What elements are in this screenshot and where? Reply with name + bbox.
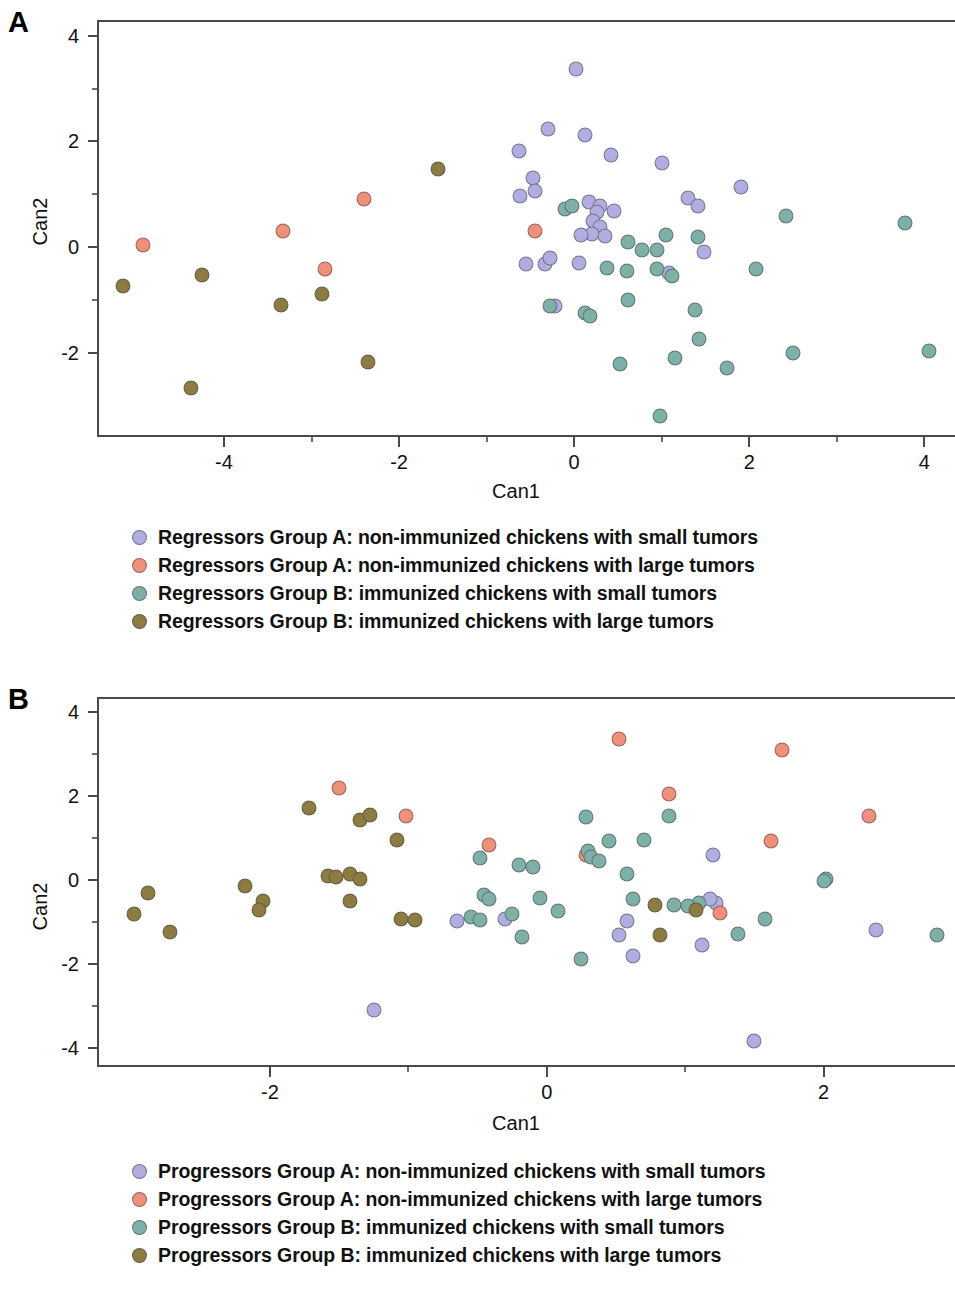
data-point [366, 1003, 381, 1018]
y-axis-tick [88, 246, 97, 248]
data-point [565, 198, 580, 213]
data-point [141, 885, 156, 900]
data-point [592, 853, 607, 868]
data-point [720, 361, 735, 376]
y-axis-tick-label: -2 [31, 952, 79, 975]
legend-item: Progressors Group B: immunized chickens … [132, 1215, 766, 1240]
y-axis-minor-tick [92, 299, 97, 301]
x-axis-tick [269, 1067, 271, 1077]
legend-label: Progressors Group A: non-immunized chick… [158, 1160, 766, 1183]
y-axis-minor-tick [92, 193, 97, 195]
y-axis-minor-tick [92, 1005, 97, 1007]
data-point [408, 912, 423, 927]
x-axis-minor-tick [661, 437, 663, 442]
y-axis-tick-label: 0 [31, 235, 79, 258]
data-point [527, 224, 542, 239]
data-point [275, 224, 290, 239]
data-point [163, 925, 178, 940]
x-axis-tick [748, 437, 750, 447]
panel-a: A Can2 420-2-4-2024 Can1 Regressors Grou… [0, 0, 955, 650]
x-axis-tick [546, 1067, 548, 1077]
data-point [315, 287, 330, 302]
data-point [481, 891, 496, 906]
y-axis-minor-tick [92, 88, 97, 90]
data-point [195, 267, 210, 282]
data-point [691, 199, 706, 214]
data-point [238, 879, 253, 894]
y-axis-tick-label: 4 [31, 700, 79, 723]
data-point [650, 262, 665, 277]
legend-label: Regressors Group A: non-immunized chicke… [158, 526, 758, 549]
data-point [749, 262, 764, 277]
scientific-figure: A Can2 420-2-4-2024 Can1 Regressors Grou… [0, 0, 955, 1294]
data-point [394, 911, 409, 926]
data-point [661, 808, 676, 823]
data-point [135, 238, 150, 253]
x-axis-tick [923, 437, 925, 447]
y-axis-tick-label: 0 [31, 868, 79, 891]
panel-b-legend: Progressors Group A: non-immunized chick… [132, 1159, 766, 1271]
data-point [898, 216, 913, 231]
y-axis-minor-tick [92, 753, 97, 755]
panel-b-x-axis-title: Can1 [466, 1112, 566, 1135]
data-point [473, 851, 488, 866]
data-point [619, 263, 634, 278]
data-point [542, 250, 557, 265]
legend-swatch-icon [132, 530, 147, 545]
legend-swatch-icon [132, 1248, 147, 1263]
data-point [625, 891, 640, 906]
legend-label: Progressors Group A: non-immunized chick… [158, 1188, 762, 1211]
data-point [636, 832, 651, 847]
y-axis-tick-label: 4 [31, 24, 79, 47]
data-point [597, 229, 612, 244]
data-point [661, 786, 676, 801]
x-axis-tick [398, 437, 400, 447]
data-point [329, 869, 344, 884]
data-point [398, 808, 413, 823]
data-point [183, 380, 198, 395]
y-axis-minor-tick [92, 921, 97, 923]
panel-b-letter: B [8, 683, 29, 716]
data-point [127, 906, 142, 921]
data-point [343, 893, 358, 908]
y-axis-tick [88, 879, 97, 881]
data-point [647, 898, 662, 913]
data-point [251, 903, 266, 918]
data-point [357, 192, 372, 207]
data-point [730, 926, 745, 941]
y-axis-tick [88, 352, 97, 354]
data-point [317, 262, 332, 277]
y-axis-tick-label: 2 [31, 784, 79, 807]
data-point [696, 245, 711, 260]
data-point [712, 905, 727, 920]
data-point [505, 906, 520, 921]
x-axis-minor-tick [407, 1067, 409, 1072]
legend-label: Progressors Group B: immunized chickens … [158, 1216, 724, 1239]
data-point [527, 184, 542, 199]
x-axis-tick [573, 437, 575, 447]
panel-a-x-axis-title: Can1 [466, 480, 566, 503]
data-point [625, 948, 640, 963]
legend-item: Progressors Group A: non-immunized chick… [132, 1187, 766, 1212]
legend-swatch-icon [132, 614, 147, 629]
y-axis-minor-tick [92, 837, 97, 839]
data-point [542, 299, 557, 314]
x-axis-tick-label: 2 [794, 1081, 854, 1104]
x-axis-tick-label: 2 [719, 451, 779, 474]
legend-label: Regressors Group A: non-immunized chicke… [158, 554, 755, 577]
data-point [612, 357, 627, 372]
x-axis-minor-tick [311, 437, 313, 442]
panel-b-points-layer [97, 697, 955, 1067]
data-point [514, 929, 529, 944]
data-point [568, 61, 583, 76]
data-point [816, 873, 831, 888]
x-axis-tick-label: -4 [194, 451, 254, 474]
data-point [603, 147, 618, 162]
data-point [540, 121, 555, 136]
data-point [758, 911, 773, 926]
data-point [571, 255, 586, 270]
data-point [862, 808, 877, 823]
data-point [635, 242, 650, 257]
data-point [921, 344, 936, 359]
data-point [691, 230, 706, 245]
